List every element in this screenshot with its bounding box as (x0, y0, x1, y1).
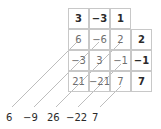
sum-label-3: 26 (47, 112, 60, 123)
product-cell-r2c2: 3 (89, 50, 110, 71)
product-cell-r1c3: 2 (110, 29, 131, 50)
product-cell-r3c3: 7 (110, 71, 131, 92)
product-cell-r3c2: −21 (89, 71, 110, 92)
sum-label-4: −22 (66, 112, 87, 123)
multiplication-grid: 3 −3 1 6 −6 2 2 −3 3 −1 −1 21 −21 7 7 6 … (0, 0, 161, 129)
product-cell-r2c3: −1 (110, 50, 131, 71)
top-cell-1: 3 (68, 8, 89, 29)
product-cell-r1c2: −6 (89, 29, 110, 50)
top-cell-3: 1 (110, 8, 131, 29)
sum-label-2: −9 (23, 112, 38, 123)
right-cell-2: −1 (131, 50, 152, 71)
right-cell-3: 7 (131, 71, 152, 92)
product-cell-r2c1: −3 (68, 50, 89, 71)
sum-label-1: 6 (6, 112, 12, 123)
product-cell-r3c1: 21 (68, 71, 89, 92)
sum-label-5: 7 (92, 112, 98, 123)
right-cell-1: 2 (131, 29, 152, 50)
product-cell-r1c1: 6 (68, 29, 89, 50)
top-cell-2: −3 (89, 8, 110, 29)
